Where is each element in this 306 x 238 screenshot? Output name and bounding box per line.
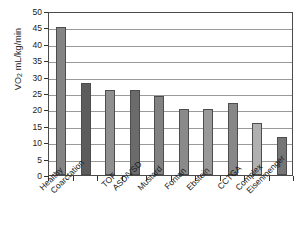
y-tick-label: 25 [33,90,42,98]
bar-chart: VO2 mL/kg/min 05101520253035404550 Healt… [0,0,306,238]
y-tick-label: 10 [33,139,42,147]
y-tick-label: 20 [33,106,42,114]
y-axis-tick-labels: 05101520253035404550 [24,12,42,176]
bars-layer [49,13,292,175]
y-tick-label: 35 [33,57,42,65]
bar [105,90,115,175]
y-tick-label: 50 [33,8,42,16]
y-tick-label: 45 [33,24,42,32]
x-axis-tick-labels: HealthyCoarctationTOFASD/VSDMustardFonta… [48,181,306,238]
plot-area [48,12,293,176]
y-tick-label: 5 [37,156,42,164]
bar [56,27,66,175]
y-axis-title: VO2 mL/kg/min [13,0,23,119]
y-tick-label: 0 [37,172,42,180]
y-tick-label: 40 [33,41,42,49]
y-tick-label: 30 [33,74,42,82]
y-tick-label: 15 [33,123,42,131]
